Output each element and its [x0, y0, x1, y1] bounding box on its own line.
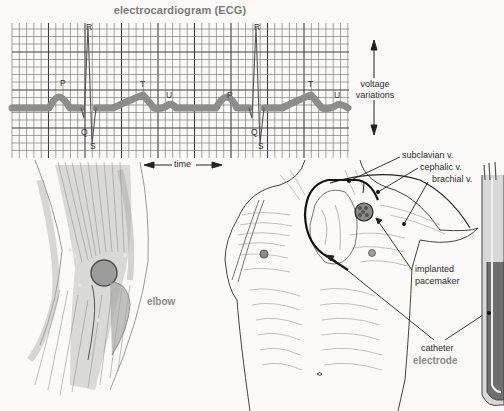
pacemaker-label-line1: implanted	[415, 264, 454, 274]
voltage-label-line1: voltage	[355, 79, 395, 89]
elbow-illustration	[30, 160, 148, 395]
wave-label-t2: T	[308, 79, 313, 89]
wave-label-r1: R	[86, 22, 92, 32]
voltage-label-line2: variations	[352, 90, 398, 100]
wave-label-u2: U	[334, 90, 340, 100]
cephalic-label: cephalic v.	[420, 162, 462, 172]
time-label: time	[174, 159, 191, 169]
wave-label-p2: P	[227, 90, 233, 100]
pacemaker-label-line2: pacemaker	[415, 276, 460, 286]
subclavian-label: subclavian v.	[402, 150, 453, 160]
brachial-label: brachial v.	[432, 174, 472, 184]
ecg-grid	[12, 23, 349, 158]
wave-label-p1: P	[60, 78, 66, 88]
electrode-label: electrode	[413, 355, 457, 366]
elbow-label: elbow	[147, 296, 175, 307]
wave-label-q2: Q	[251, 127, 258, 137]
catheter-detail	[482, 162, 504, 406]
wave-label-t1: T	[140, 79, 145, 89]
wave-label-s1: S	[90, 141, 96, 151]
wave-label-q1: Q	[81, 127, 88, 137]
wave-label-s2: S	[258, 141, 264, 151]
wave-label-u1: U	[166, 90, 172, 100]
wave-label-r2: R	[254, 22, 260, 32]
catheter-label: catheter	[421, 343, 454, 353]
leader-lines	[326, 157, 486, 340]
